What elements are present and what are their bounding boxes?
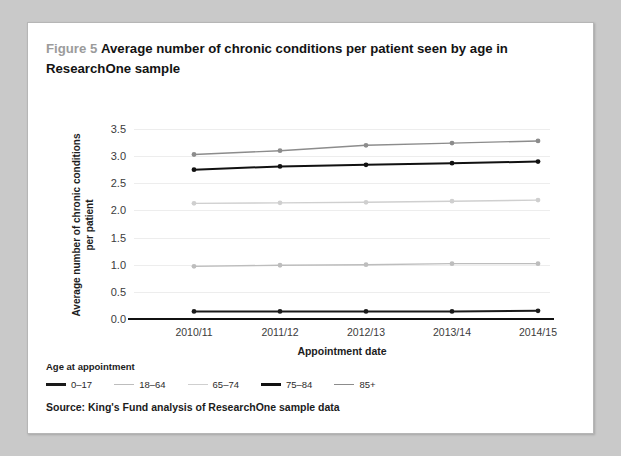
data-point [536,261,541,266]
x-tick-label: 2010/11 [175,326,212,338]
legend: Age at appointment 0–1718–6465–7475–8485… [46,361,566,390]
data-point [278,164,283,169]
y-tick-label: 0.0 [111,313,126,325]
data-point [364,143,369,148]
legend-item[interactable]: 18–64 [114,379,165,390]
legend-line-icon [261,383,281,386]
y-tick-label: 3.0 [111,150,126,162]
y-tick-label: 2.0 [111,204,126,216]
y-tick-label: 1.0 [111,259,126,271]
legend-label: 18–64 [139,379,165,390]
legend-item[interactable]: 85+ [334,379,375,390]
data-point [364,262,369,267]
data-point [192,167,197,172]
legend-line-icon [46,383,66,386]
data-point [450,261,455,266]
y-tick-label: 3.5 [111,123,126,135]
y-axis-title: Average number of chronic conditions per… [71,130,96,320]
series-lines [134,129,550,319]
page-title: Average number of chronic conditions per… [46,41,508,76]
data-point [192,309,197,314]
y-tick-label: 2.5 [111,177,126,189]
legend-item[interactable]: 65–74 [188,379,239,390]
data-point [192,201,197,206]
data-point [278,263,283,268]
data-point [450,141,455,146]
figure-label: Figure 5 [46,41,97,56]
data-point [278,200,283,205]
data-point [192,152,197,157]
plot-region: 0.00.51.01.52.02.53.03.5 2010/112011/122… [134,129,550,319]
legend-title: Age at appointment [46,361,566,372]
legend-item[interactable]: 0–17 [46,379,92,390]
legend-label: 85+ [359,379,375,390]
y-tick-label: 1.5 [111,232,126,244]
data-point [364,200,369,205]
x-tick-label: 2013/14 [433,326,471,338]
legend-item[interactable]: 75–84 [261,379,312,390]
x-tick-label: 2014/15 [519,326,557,338]
legend-label: 75–84 [286,379,312,390]
figure-heading: Figure 5 Average number of chronic condi… [46,39,566,80]
chart-area: Average number of chronic conditions per… [46,95,576,355]
legend-label: 65–74 [213,379,239,390]
legend-line-icon [114,384,134,386]
x-tick-label: 2011/12 [261,326,298,338]
data-point [536,198,541,203]
legend-line-icon [188,384,208,386]
legend-items: 0–1718–6465–7475–8485+ [46,379,566,390]
legend-label: 0–17 [71,379,92,390]
data-point [278,309,283,314]
data-point [192,264,197,269]
data-point [450,199,455,204]
data-point [450,309,455,314]
data-point [364,309,369,314]
data-point [536,308,541,313]
figure-card: Figure 5 Average number of chronic condi… [27,22,594,434]
legend-line-icon [334,384,354,386]
source-note: Source: King's Fund analysis of Research… [46,401,566,413]
data-point [364,162,369,167]
x-axis-title: Appointment date [134,345,550,357]
y-tick-label: 0.5 [111,286,126,298]
x-tick-label: 2012/13 [347,326,385,338]
data-point [536,159,541,164]
data-point [278,148,283,153]
data-point [536,139,541,144]
x-axis-baseline [128,318,554,321]
data-point [450,161,455,166]
